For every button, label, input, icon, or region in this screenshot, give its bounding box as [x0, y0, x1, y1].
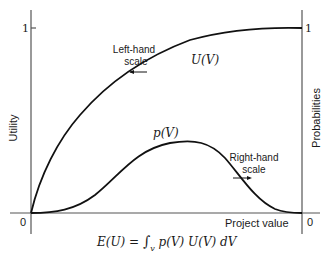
right-tick-zero-label: 0: [307, 216, 313, 228]
left-hand-annotation-line2: scale: [124, 56, 148, 67]
left-axis-label: Utility: [7, 114, 19, 141]
left-arrow-icon: [129, 70, 147, 74]
right-hand-annotation-line2: scale: [242, 164, 266, 175]
probability-curve-label: p(V): [153, 126, 179, 140]
formula-rhs: p(V) U(V) dV: [155, 235, 238, 249]
right-tick-one-label: 1: [305, 22, 312, 35]
formula-lhs: E(U) =: [96, 235, 143, 249]
left-tick-zero-label: 0: [20, 216, 26, 228]
formula: E(U) = ∫v p(V) U(V) dV: [96, 233, 238, 253]
left-tick-one-label: 1: [22, 22, 29, 35]
utility-curve-label: U(V): [191, 53, 219, 67]
expected-utility-diagram: 1 1 0 0 Utility Probabilities Project va…: [0, 0, 329, 263]
right-hand-annotation-line1: Right-hand: [230, 152, 279, 163]
left-hand-annotation-line1: Left-hand: [113, 44, 155, 55]
utility-curve: [31, 28, 302, 213]
x-axis-label: Project value: [225, 217, 289, 229]
integral-sign: ∫: [143, 233, 150, 249]
right-axis-label: Probabilities: [310, 88, 322, 148]
